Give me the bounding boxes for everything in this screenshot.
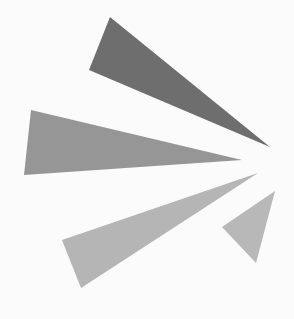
- ray-small: [222, 191, 275, 263]
- logo-canvas: [0, 0, 294, 319]
- burst-logo-icon: [0, 0, 294, 319]
- ray-top: [89, 17, 270, 147]
